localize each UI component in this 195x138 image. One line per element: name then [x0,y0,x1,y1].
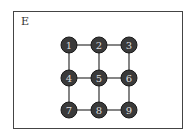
node-label-5: 5 [96,73,102,84]
grid-graph: 123456789 [0,0,195,138]
node-label-7: 7 [66,105,72,116]
node-label-6: 6 [126,73,132,84]
node-label-3: 3 [126,40,132,51]
node-label-9: 9 [126,105,132,116]
node-label-2: 2 [96,40,102,51]
node-label-8: 8 [96,105,102,116]
node-label-1: 1 [66,40,72,51]
node-label-4: 4 [66,73,72,84]
